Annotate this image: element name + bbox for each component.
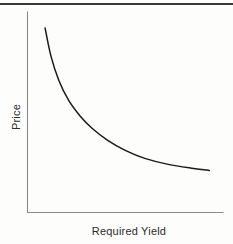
- axis-lines: [28, 12, 224, 213]
- y-axis-label: Price: [10, 104, 22, 130]
- price-yield-curve: [45, 28, 209, 170]
- plot-area: [0, 0, 233, 244]
- x-axis-label: Required Yield: [92, 225, 166, 237]
- chart-figure: Price Required Yield: [0, 0, 233, 244]
